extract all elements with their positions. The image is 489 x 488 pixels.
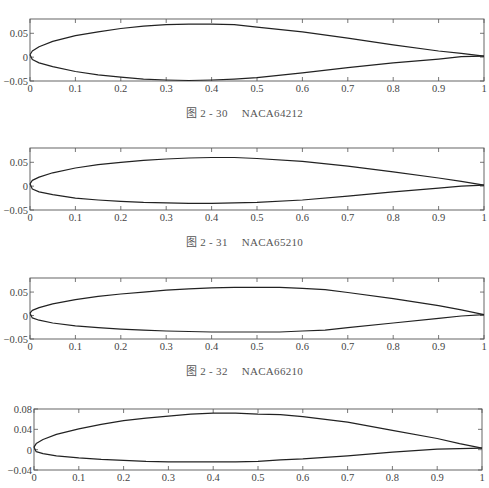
x-tick-label: 0.8 <box>386 472 399 483</box>
y-tick-label: 0 <box>27 445 32 456</box>
x-tick-label: 0.7 <box>341 472 354 483</box>
airfoil-lower-surface-line <box>34 447 482 462</box>
x-tick-label: 0.5 <box>251 472 264 483</box>
y-tick-label: 0.08 <box>14 404 32 415</box>
x-tick-label: 0.6 <box>296 472 309 483</box>
y-tick-label: 0.04 <box>14 424 33 435</box>
x-tick-label: 1 <box>479 472 484 483</box>
x-tick-label: 0.4 <box>207 472 221 483</box>
x-tick-label: 0.2 <box>117 472 130 483</box>
x-tick-label: 0.1 <box>72 472 85 483</box>
y-tick-label: −0.04 <box>8 465 33 476</box>
airfoil-chart-4: 00.10.20.30.40.50.60.70.80.910.080.040−0… <box>0 0 489 488</box>
plot-svg: 00.10.20.30.40.50.60.70.80.910.080.040−0… <box>0 0 489 488</box>
x-tick-label: 0.9 <box>431 472 444 483</box>
x-tick-label: 0 <box>31 472 36 483</box>
airfoil-upper-surface-line <box>34 413 482 448</box>
x-tick-label: 0.3 <box>162 472 175 483</box>
